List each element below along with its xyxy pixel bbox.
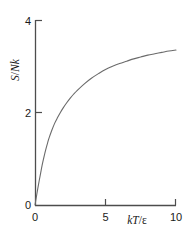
plot-area: 4 2 0 0 5 10 kT/ε S/Nk <box>0 0 195 240</box>
y-tick-label-0: 0 <box>25 199 31 211</box>
x-axis-title-epsilon: ε <box>142 214 147 226</box>
chart-figure: 4 2 0 0 5 10 kT/ε S/Nk <box>0 0 195 240</box>
x-tick-label-0: 0 <box>32 211 38 223</box>
y-axis-title: S/Nk <box>9 58 21 81</box>
x-tick-label-10: 10 <box>170 211 182 223</box>
y-tick-label-2: 2 <box>25 107 31 119</box>
x-axis-title: kT/ε <box>127 214 147 226</box>
y-tick-label-4: 4 <box>25 15 31 27</box>
y-axis-title-k: k <box>9 58 21 64</box>
x-tick-label-5: 5 <box>102 211 108 223</box>
